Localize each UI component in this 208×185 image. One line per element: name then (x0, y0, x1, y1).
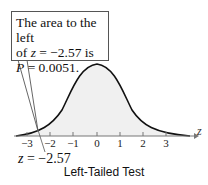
callout-line-1: The area to the left (16, 15, 97, 45)
callout-text: = 0.0051. (24, 60, 79, 75)
tick-label: −3 (21, 137, 33, 149)
tick-label: 2 (140, 137, 146, 149)
annotation-callout: The area to the left of z = −2.57 is P =… (11, 11, 109, 61)
tick-label: −2 (44, 137, 56, 149)
z-value: = −2.57 (23, 151, 70, 166)
figure-caption: Left-Tailed Test (0, 165, 208, 179)
callout-var-p: P (16, 60, 24, 75)
tick-label: 0 (94, 137, 100, 149)
tick-label: 3 (163, 137, 169, 149)
tick-label: −1 (67, 137, 79, 149)
axis-label: z (197, 124, 202, 139)
tick-label: 1 (117, 137, 123, 149)
callout-text: = −2.57 is (36, 45, 94, 60)
callout-text: of (16, 45, 31, 60)
